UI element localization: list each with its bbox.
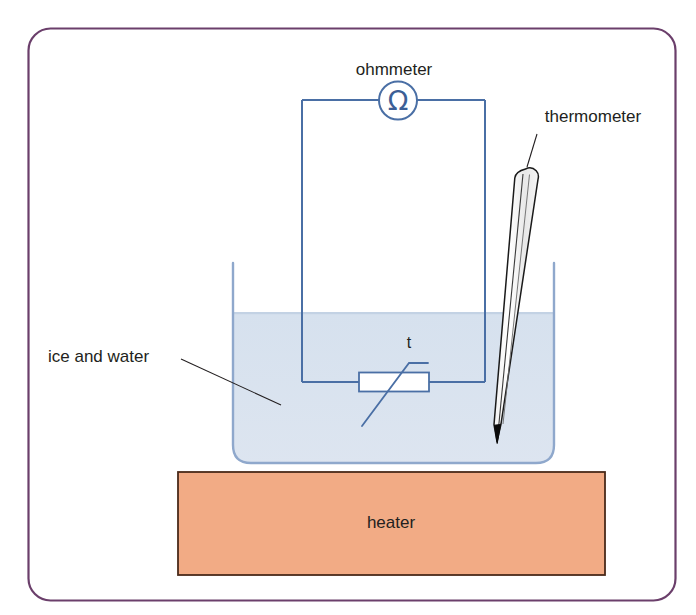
ohmmeter-label: ohmmeter [356,60,433,79]
ohmmeter-omega-symbol: Ω [388,85,409,116]
figure-container: heater Ω ohmmeter t [0,0,696,615]
ice-and-water-label: ice and water [48,347,149,366]
heater-label: heater [367,513,416,532]
thermistor-label: t [407,334,412,351]
thermometer-label: thermometer [545,107,642,126]
